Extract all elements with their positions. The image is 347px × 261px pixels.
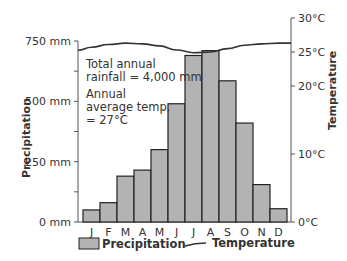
precipitation-bar bbox=[134, 170, 151, 222]
precipitation-bar bbox=[253, 185, 270, 222]
precipitation-bar bbox=[219, 81, 236, 222]
precipitation-bar bbox=[202, 51, 219, 222]
annotation-temp-2: average temp. bbox=[86, 100, 170, 114]
y-axis-label-left: Precipitation bbox=[20, 98, 33, 178]
legend-precip-label: Precipitation bbox=[102, 237, 186, 251]
month-label: J bbox=[89, 226, 93, 239]
y-right-tick-label: 0°C bbox=[298, 216, 318, 229]
y-tick-label: 0 mm bbox=[39, 216, 71, 229]
legend-temp-label: Temperature bbox=[212, 236, 295, 250]
precipitation-bar bbox=[270, 209, 287, 222]
precipitation-bar bbox=[100, 203, 117, 222]
temperature-line bbox=[78, 43, 291, 53]
annotation-rainfall-2: rainfall = 4,000 mm bbox=[86, 70, 202, 84]
annotation-temp-1: Annual bbox=[86, 87, 126, 101]
y-right-tick-label: 30°C bbox=[298, 12, 325, 25]
climate-chart: 0 mm250 mm500 mm750 mm 0°C10°C20°C25°C30… bbox=[0, 0, 347, 261]
precipitation-bar bbox=[83, 210, 100, 222]
precipitation-bar bbox=[117, 176, 134, 222]
annotation-rainfall-1: Total annual bbox=[85, 57, 156, 71]
legend-temp-line bbox=[185, 243, 206, 246]
precipitation-bar bbox=[236, 123, 253, 222]
y-axis-label-right: Temperature bbox=[326, 51, 339, 130]
y-tick-label: 750 mm bbox=[25, 35, 71, 48]
annotation-temp-3: = 27°C bbox=[86, 113, 128, 127]
precipitation-bar bbox=[168, 104, 185, 222]
precipitation-bar bbox=[151, 150, 168, 222]
y-right-tick-label: 10°C bbox=[298, 148, 325, 161]
y-right-tick-label: 25°C bbox=[298, 46, 325, 59]
legend-precip-swatch bbox=[79, 238, 99, 249]
y-right-tick-label: 20°C bbox=[298, 80, 325, 93]
right-axis: 0°C10°C20°C25°C30°C bbox=[291, 12, 325, 229]
month-label: J bbox=[191, 226, 195, 239]
